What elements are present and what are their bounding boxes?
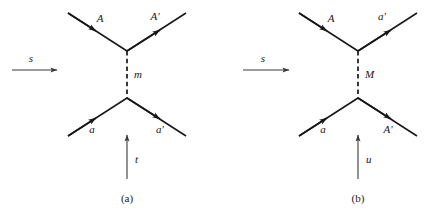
panel-b-top-right-arrow	[358, 30, 391, 51]
panel-a: s A A' m a a' t (a)	[12, 10, 186, 205]
panel-a-t-arrow: t	[127, 135, 139, 179]
panel-b-bottom-left-label: a	[320, 123, 326, 135]
panel-b-s-arrow: s	[243, 52, 289, 70]
panel-a-top-right-label: A'	[149, 10, 160, 22]
panel-a-s-arrow: s	[12, 52, 57, 70]
panel-a-top-left-arrow	[68, 13, 96, 31]
panel-b: s A a' M a A' u (b)	[243, 10, 417, 205]
panel-a-s-label: s	[29, 52, 33, 64]
panel-a-top-right-arrow	[127, 30, 160, 51]
figure-canvas: s A A' m a a' t (a) s	[0, 0, 427, 210]
panel-a-bottom-right-label: a'	[156, 123, 165, 135]
panel-b-exchange-label: M	[364, 68, 375, 80]
panel-a-exchange-label: m	[134, 68, 142, 80]
panel-a-caption: (a)	[121, 192, 134, 205]
panel-b-top-right-label: a'	[378, 10, 387, 22]
panel-b-top-left-arrow	[299, 13, 327, 31]
panel-b-s-label: s	[261, 52, 265, 64]
feynman-diagram-figure: s A A' m a a' t (a) s	[0, 0, 427, 210]
panel-b-u-arrow: u	[358, 135, 372, 179]
panel-b-bottom-right-label: A'	[382, 123, 393, 135]
panel-a-top-left-label: A	[96, 12, 104, 24]
panel-b-u-label: u	[366, 153, 372, 165]
panel-a-t-label: t	[135, 153, 139, 165]
panel-b-bottom-right-arrow	[358, 98, 391, 119]
panel-b-caption: (b)	[352, 192, 365, 205]
panel-a-bottom-left-label: a	[89, 123, 95, 135]
panel-a-bottom-right-arrow	[127, 98, 160, 119]
panel-b-top-left-label: A	[327, 12, 335, 24]
